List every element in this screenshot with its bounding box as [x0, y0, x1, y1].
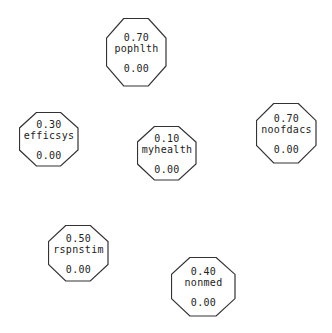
node-name: nonmed — [171, 277, 236, 288]
node-pophlth[interactable]: 0.70 pophlth 0.00 — [106, 18, 167, 87]
node-myhealth[interactable]: 0.10 myhealth 0.00 — [137, 126, 197, 181]
node-base-value: 0.00 — [137, 164, 197, 175]
node-value: 0.30 — [19, 119, 79, 130]
node-rspnstim[interactable]: 0.50 rspnstim 0.00 — [48, 225, 109, 282]
diagram-canvas: 0.70 pophlth 0.00 0.30 efficsys 0.00 0.1… — [0, 0, 332, 333]
node-efficsys[interactable]: 0.30 efficsys 0.00 — [19, 112, 79, 167]
node-value: 0.50 — [48, 233, 109, 244]
node-value: 0.10 — [137, 133, 197, 144]
node-base-value: 0.00 — [19, 150, 79, 161]
node-value: 0.70 — [256, 113, 317, 124]
node-value: 0.40 — [171, 266, 236, 277]
node-name: myhealth — [137, 144, 197, 155]
node-name: rspnstim — [48, 244, 109, 255]
node-name: noofdacs — [256, 124, 317, 135]
node-name: efficsys — [19, 130, 79, 141]
node-base-value: 0.00 — [48, 264, 109, 275]
node-name: pophlth — [106, 43, 167, 54]
node-base-value: 0.00 — [256, 144, 317, 155]
node-value: 0.70 — [106, 32, 167, 43]
node-base-value: 0.00 — [106, 63, 167, 74]
node-base-value: 0.00 — [171, 297, 236, 308]
node-nonmed[interactable]: 0.40 nonmed 0.00 — [171, 257, 236, 317]
node-noofdacs[interactable]: 0.70 noofdacs 0.00 — [256, 103, 317, 164]
